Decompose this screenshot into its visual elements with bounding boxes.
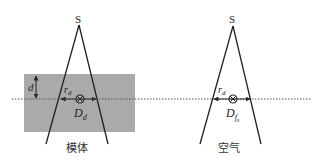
phantom-panel: S d rd Dd 模体	[24, 13, 135, 155]
source-label: S	[75, 13, 81, 25]
air-caption: 空气	[218, 141, 240, 155]
dose-label: Dfs	[225, 106, 240, 123]
source-label: S	[229, 13, 235, 25]
phantom-caption: 模体	[66, 141, 88, 155]
radius-label: rd	[218, 84, 226, 97]
air-panel: S rd Dfs 空气	[200, 13, 261, 155]
beam-edge-left	[200, 26, 233, 144]
depth-label: d	[28, 81, 34, 93]
beam-edge-right	[233, 26, 261, 144]
diagram-canvas: S d rd Dd 模体 S rd Dfs 空气	[0, 0, 318, 163]
